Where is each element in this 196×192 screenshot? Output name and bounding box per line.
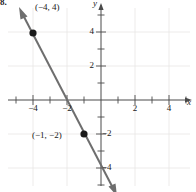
x-tick-label: 2 bbox=[128, 103, 142, 113]
y-tick-label: −4 bbox=[102, 162, 120, 172]
coordinate-plane bbox=[0, 0, 196, 192]
data-point-marker bbox=[29, 29, 36, 36]
point-annotation: (−1, −2) bbox=[32, 130, 62, 140]
axis-arrowheads bbox=[98, 3, 192, 103]
x-tick-label: −2 bbox=[59, 103, 75, 113]
point-annotation: (−4, 4) bbox=[35, 2, 60, 12]
y-tick-label: 4 bbox=[82, 26, 94, 36]
y-tick-label: 2 bbox=[82, 60, 94, 70]
data-point-marker bbox=[80, 130, 87, 137]
x-tick-label: 4 bbox=[162, 103, 176, 113]
y-tick-label: −2 bbox=[102, 128, 120, 138]
y-axis-label: y bbox=[93, 0, 97, 8]
graph-figure: 8. bbox=[0, 0, 196, 192]
x-axis-label: x bbox=[187, 97, 191, 107]
x-tick-label: −4 bbox=[25, 103, 41, 113]
